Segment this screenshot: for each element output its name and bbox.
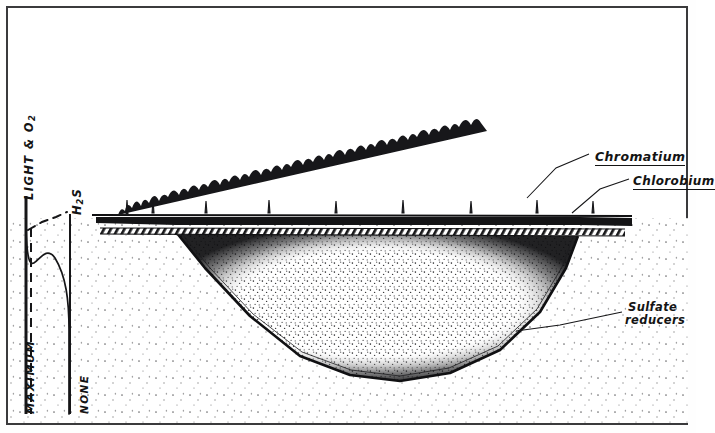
axis-label-light-oxygen: LIGHT & O2 — [22, 114, 37, 200]
shore-vegetation-line — [118, 119, 594, 215]
axis-label-h2s: H2S — [70, 188, 85, 215]
bacterial-band-chromatium — [96, 217, 632, 226]
callout-label-sulfate-line2: reducers — [625, 313, 685, 327]
leader-chromatium — [527, 154, 589, 198]
callout-label-chlorobium: Chlorobium — [633, 174, 715, 190]
bacterial-band-chlorobium — [100, 228, 625, 236]
callout-label-chromatium: Chromatium — [595, 149, 685, 166]
water-surface-line — [92, 215, 632, 216]
callout-label-sulfate-line1: Sulfate — [628, 300, 677, 314]
axis-label-none: NONE — [78, 375, 90, 414]
leader-chlorobium — [572, 179, 629, 213]
axis-label-maximum: MAXIMUM — [24, 340, 37, 414]
